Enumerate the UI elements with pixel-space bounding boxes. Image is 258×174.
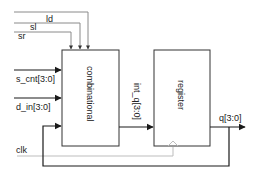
- register-label: register: [176, 80, 186, 110]
- s-cnt-label: s_cnt[3:0]: [16, 74, 55, 84]
- ld-label: ld: [46, 14, 53, 24]
- clk-label: clk: [16, 145, 27, 155]
- combinational-label: combinational: [85, 66, 95, 122]
- sl-label: sl: [30, 22, 37, 32]
- q-label: q[3:0]: [219, 113, 242, 123]
- d-in-label: d_in[3:0]: [16, 102, 51, 112]
- block-diagram: ld sl sr combinational s_cnt[3:0] d_in[3…: [0, 0, 258, 174]
- clk-wire: [17, 147, 173, 156]
- int-q-label: int_q[3:0]: [132, 83, 142, 120]
- sr-label: sr: [18, 31, 26, 41]
